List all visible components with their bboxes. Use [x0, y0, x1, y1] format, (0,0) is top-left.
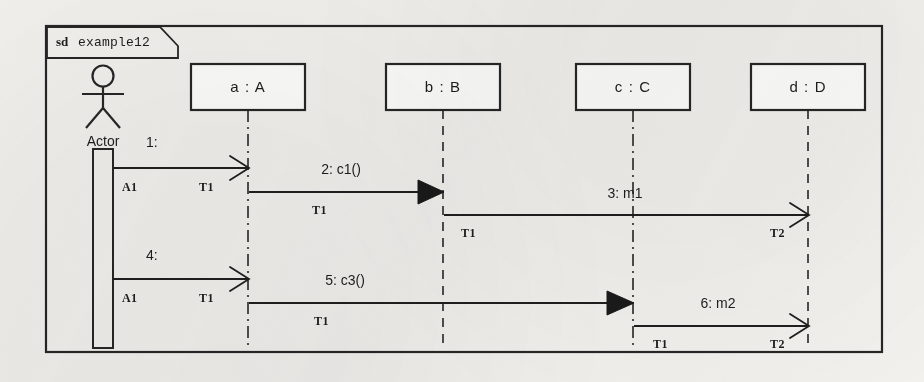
- message-5-label: 5: c3(): [325, 272, 365, 288]
- lifeline-label-d: d : D: [789, 78, 826, 95]
- lifeline-a[interactable]: a : A: [191, 64, 305, 348]
- message-4-target-tag: T1: [199, 291, 214, 305]
- message-2-arrowhead-filled: [418, 180, 444, 204]
- message-3-target-tag: T2: [770, 226, 785, 240]
- actor-label: Actor: [87, 133, 120, 149]
- lifeline-d[interactable]: d : D: [751, 64, 865, 348]
- frame-name-label: example12: [78, 35, 150, 50]
- sequence-diagram-canvas: sd example12 Actor a : A b : B c :: [0, 0, 924, 382]
- message-4-label: 4:: [146, 247, 158, 263]
- message-5-source-tag: T1: [314, 314, 329, 328]
- lifeline-c[interactable]: c : C: [576, 64, 690, 348]
- message-6-source-tag: T1: [653, 337, 668, 351]
- message-5-arrowhead-filled: [607, 291, 634, 315]
- message-3[interactable]: 3: m1 T1 T2: [444, 185, 809, 240]
- message-3-source-tag: T1: [461, 226, 476, 240]
- lifeline-b[interactable]: b : B: [386, 64, 500, 348]
- message-1-target-tag: T1: [199, 180, 214, 194]
- actor-leg-right-icon: [103, 108, 120, 128]
- lifeline-label-b: b : B: [425, 78, 461, 95]
- lifeline-label-c: c : C: [615, 78, 651, 95]
- message-3-label: 3: m1: [607, 185, 642, 201]
- message-6-target-tag: T2: [770, 337, 785, 351]
- message-4[interactable]: 4: A1 T1: [113, 247, 249, 305]
- actor-leg-left-icon: [86, 108, 103, 128]
- message-1-source-tag: A1: [122, 180, 137, 194]
- frame-kind-keyword: sd: [56, 34, 69, 49]
- message-1[interactable]: 1: A1 T1: [113, 134, 249, 194]
- actor-activation-bar: [93, 149, 113, 348]
- message-5[interactable]: 5: c3() T1: [249, 272, 634, 328]
- actor-head-icon: [93, 66, 114, 87]
- message-2[interactable]: 2: c1() T1: [249, 161, 444, 217]
- message-6[interactable]: 6: m2 T1 T2: [634, 295, 809, 351]
- message-4-source-tag: A1: [122, 291, 137, 305]
- message-2-source-tag: T1: [312, 203, 327, 217]
- message-6-label: 6: m2: [700, 295, 735, 311]
- lifeline-label-a: a : A: [230, 78, 266, 95]
- message-2-label: 2: c1(): [321, 161, 361, 177]
- message-1-label: 1:: [146, 134, 158, 150]
- actor-figure[interactable]: Actor: [82, 66, 124, 149]
